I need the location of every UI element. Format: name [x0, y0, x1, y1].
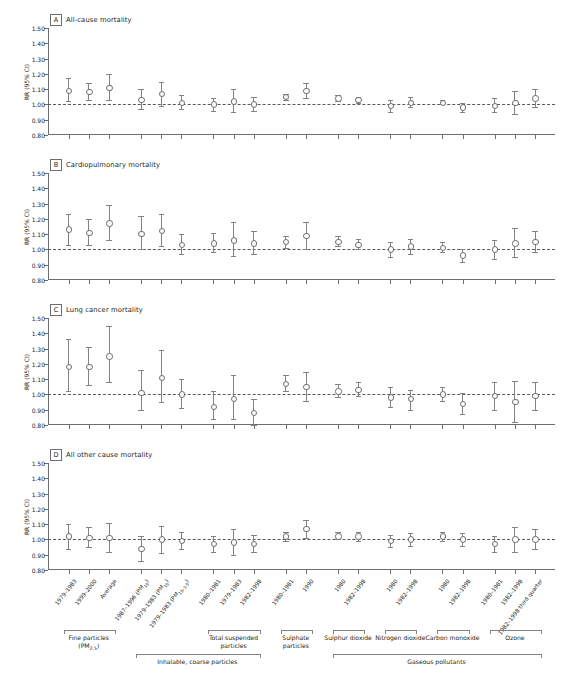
x-axis-tick [338, 425, 339, 429]
error-bar-cap-upper [492, 240, 497, 241]
error-bar-cap-lower [440, 252, 445, 253]
y-axis-tick-label: 0.80 [32, 422, 45, 429]
point-marker [512, 536, 518, 542]
error-bar-cap-lower [106, 240, 111, 241]
error-bar-cap-upper [408, 533, 413, 534]
figure-root: AAll-cause mortalityRR (95% CI)1.501.401… [0, 0, 575, 680]
group-bracket-label: Total suspended particles [207, 634, 261, 649]
panel-letter-box: B [50, 159, 62, 171]
error-bar-cap-lower [66, 391, 71, 392]
point-marker [159, 91, 165, 97]
error-bar-cap-upper [231, 222, 236, 223]
x-axis-tick [410, 280, 411, 284]
reference-line [48, 104, 555, 105]
x-axis-tick-label: 1982–1998 [395, 578, 419, 606]
error-bar-cap-upper [283, 375, 288, 376]
x-axis-tick [495, 570, 496, 574]
error-bar-cap-upper [211, 391, 216, 392]
point-marker [388, 103, 394, 109]
error-bar-cap-upper [159, 350, 164, 351]
error-bar-cap-lower [86, 385, 91, 386]
y-axis-tick-label: 0.90 [32, 116, 45, 123]
error-bar-cap-upper [66, 524, 71, 525]
panel-header: CLung cancer mortality [50, 304, 143, 316]
x-axis-tick [442, 570, 443, 574]
x-axis-tick [161, 135, 162, 139]
point-marker [179, 391, 185, 397]
error-bar-cap-lower [179, 109, 184, 110]
x-axis-tick-label: 1980 [333, 578, 347, 593]
point-marker [460, 252, 466, 258]
point-marker [408, 243, 414, 249]
x-axis-tick [161, 570, 162, 574]
y-axis-line [48, 173, 49, 280]
panel-b: BCardiopulmonary mortalityRR (95% CI)1.5… [0, 157, 575, 302]
point-marker [231, 539, 237, 545]
error-bar-cap-lower [512, 422, 517, 423]
x-axis-tick-label: 1979–1983 (PM15–2.5) [149, 578, 192, 630]
point-marker [355, 242, 361, 248]
x-axis-tick [515, 570, 516, 574]
x-axis-tick [390, 135, 391, 139]
point-marker [460, 536, 466, 542]
y-axis-tick-label: 1.30 [32, 490, 45, 497]
error-bar-cap-lower [106, 100, 111, 101]
error-bar-cap-upper [303, 372, 308, 373]
x-axis-line [48, 134, 555, 135]
error-bar-cap-lower [211, 419, 216, 420]
error-bar-cap-lower [388, 112, 393, 113]
error-bar-cap-upper [86, 347, 91, 348]
error-bar-cap-lower [532, 252, 537, 253]
y-axis-tick-label: 1.50 [32, 315, 45, 322]
error-bar-cap-lower [86, 547, 91, 548]
point-marker [251, 240, 257, 246]
point-marker [460, 104, 466, 110]
error-bar-cap-lower [138, 561, 143, 562]
error-bar-cap-lower [211, 252, 216, 253]
x-axis-tick [254, 135, 255, 139]
x-axis-tick [410, 425, 411, 429]
point-marker [355, 97, 361, 103]
error-bar-cap-upper [440, 387, 445, 388]
x-axis-tick [161, 425, 162, 429]
x-axis-tick [535, 280, 536, 284]
error-bar-cap-upper [179, 379, 184, 380]
error-bar-cap-upper [532, 382, 537, 383]
y-axis-tick-label: 1.00 [32, 246, 45, 253]
point-marker [303, 384, 309, 390]
error-bar-cap-lower [512, 552, 517, 553]
error-bar-cap-lower [492, 552, 497, 553]
x-axis-tick [390, 280, 391, 284]
error-bar-cap-lower [512, 257, 517, 258]
error-bar-cap-lower [532, 410, 537, 411]
point-marker [283, 239, 289, 245]
y-axis-tick-label: 1.50 [32, 170, 45, 177]
error-bar-cap-lower [86, 245, 91, 246]
error-bar-cap-upper [492, 536, 497, 537]
x-axis-tick [181, 280, 182, 284]
x-axis-line [48, 279, 555, 280]
error-bar-cap-upper [532, 89, 537, 90]
x-axis-tick-label: Average [99, 578, 118, 600]
panel-a: AAll-cause mortalityRR (95% CI)1.501.401… [0, 12, 575, 157]
error-bar-cap-upper [106, 523, 111, 524]
x-axis-tick [234, 135, 235, 139]
point-marker [532, 393, 538, 399]
error-bar-cap-upper [251, 399, 256, 400]
point-marker [492, 103, 498, 109]
x-axis-tick-label: 1990 [301, 578, 315, 593]
y-axis-tick-label: 0.80 [32, 132, 45, 139]
panel-d: DAll other cause mortalityRR (95% CI)1.5… [0, 447, 575, 592]
point-marker [440, 533, 446, 539]
y-axis-line [48, 318, 49, 425]
error-bar-cap-lower [335, 397, 340, 398]
point-marker [106, 353, 112, 359]
y-axis-tick-label: 1.20 [32, 360, 45, 367]
x-axis-tick [89, 280, 90, 284]
error-bar-cap-lower [159, 246, 164, 247]
error-bar-cap-lower [138, 249, 143, 250]
error-bar-cap-upper [532, 529, 537, 530]
error-bar-cap-lower [335, 246, 340, 247]
x-axis-tick [89, 135, 90, 139]
error-bar-cap-lower [408, 254, 413, 255]
